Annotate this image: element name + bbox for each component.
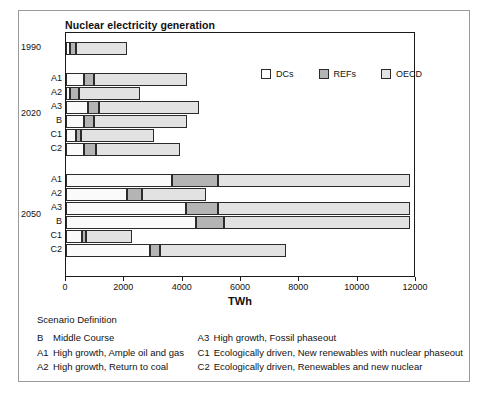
year-group-labels: 199020202050 — [19, 32, 65, 277]
scenario-definition-entry: A3High growth, Fossil phaseout — [198, 332, 463, 343]
bar-segment-refs — [84, 143, 96, 156]
bar-segment-oecd — [79, 87, 140, 100]
bar-segment-dcs — [66, 216, 196, 229]
x-tick-label: 2000 — [113, 282, 133, 292]
bar-segment-refs — [70, 87, 79, 100]
legend-label: REFs — [334, 69, 357, 79]
bar-segment-refs — [172, 174, 218, 187]
bar-segment-refs — [88, 101, 99, 114]
chart-legend: DCsREFsOECD — [261, 69, 422, 79]
scenario-definition-entry: C2Ecologically driven, Renewables and ne… — [198, 361, 463, 372]
scenario-definition-code: A1 — [37, 347, 49, 358]
x-tick — [182, 277, 183, 281]
x-tick — [65, 277, 66, 281]
bar-segment-oecd — [94, 73, 187, 86]
bar-segment-dcs — [66, 129, 76, 142]
x-tick-label: 6000 — [230, 282, 250, 292]
bar-segment-dcs — [66, 115, 84, 128]
legend-label: DCs — [276, 69, 294, 79]
bar-segment-refs — [84, 73, 94, 86]
bar-segment-dcs — [66, 202, 186, 215]
bar-segment-oecd — [76, 42, 127, 55]
scenario-definition-text: Middle Course — [53, 332, 114, 343]
legend-label: OECD — [396, 69, 422, 79]
scenario-definition-code: A2 — [37, 361, 49, 372]
bar-segment-oecd — [86, 230, 132, 243]
scenario-definition-heading: Scenario Definition — [37, 314, 463, 325]
bar-segment-oecd — [218, 202, 410, 215]
year-group-label: 2050 — [21, 209, 65, 220]
scenario-definition-text: High growth, Return to coal — [53, 361, 168, 372]
scenario-definition-code: C2 — [198, 361, 210, 372]
bar-segment-oecd — [96, 143, 180, 156]
x-axis-title: TWh — [65, 295, 415, 307]
bar-segment-dcs — [66, 244, 150, 257]
x-tick-label: 0 — [62, 282, 67, 292]
bar-segment-dcs — [66, 188, 127, 201]
scenario-definition-entry: A2High growth, Return to coal — [37, 361, 198, 372]
chart-title: Nuclear electricity generation — [65, 19, 215, 31]
x-tick — [357, 277, 358, 281]
scenario-definition-entry: BMiddle Course — [37, 332, 198, 343]
x-tick-label: 12000 — [402, 282, 427, 292]
legend-item-oecd: OECD — [381, 69, 422, 79]
year-group-label: 2020 — [21, 108, 65, 119]
bar-segment-oecd — [218, 174, 410, 187]
bar-segment-dcs — [66, 174, 172, 187]
x-tick — [123, 277, 124, 281]
legend-swatch-refs-icon — [319, 69, 329, 79]
scenario-definition-code: B — [37, 332, 49, 343]
bar-segment-refs — [196, 216, 224, 229]
x-tick — [298, 277, 299, 281]
x-tick — [415, 277, 416, 281]
bar-segment-oecd — [160, 244, 286, 257]
bar-segment-dcs — [66, 143, 84, 156]
bar-segment-refs — [84, 115, 94, 128]
scenario-definition-entry: C1Ecologically driven, New renewables wi… — [198, 347, 463, 358]
bar-segment-refs — [186, 202, 218, 215]
bar-segment-oecd — [99, 101, 199, 114]
bar-segment-oecd — [94, 115, 187, 128]
bar-segment-oecd — [81, 129, 155, 142]
scenario-definition-text: High growth, Fossil phaseout — [214, 332, 337, 343]
scenario-definition-right-column: A3High growth, Fossil phaseoutC1Ecologic… — [198, 332, 463, 372]
bar-segment-dcs — [66, 101, 88, 114]
scenario-definition-left-column: BMiddle CourseA1High growth, Ample oil a… — [37, 332, 198, 372]
figure-panel: Nuclear electricity generation A1A2A3BC1… — [18, 10, 470, 382]
scenario-definition-code: C1 — [198, 347, 210, 358]
bar-segment-oecd — [142, 188, 206, 201]
x-tick-label: 8000 — [288, 282, 308, 292]
x-tick — [240, 277, 241, 281]
legend-item-refs: REFs — [319, 69, 357, 79]
scenario-definition-entry: A1High growth, Ample oil and gas — [37, 347, 198, 358]
year-group-label: 1990 — [21, 42, 65, 53]
bar-segment-refs — [150, 244, 160, 257]
bar-segment-refs — [70, 42, 77, 55]
bar-segment-dcs — [66, 73, 84, 86]
legend-swatch-dcs-icon — [261, 69, 271, 79]
legend-item-dcs: DCs — [261, 69, 294, 79]
bar-segment-oecd — [224, 216, 410, 229]
legend-swatch-oecd-icon — [381, 69, 391, 79]
scenario-definition-text: Ecologically driven, New renewables with… — [214, 347, 463, 358]
scenario-definition-text: High growth, Ample oil and gas — [53, 347, 184, 358]
scenario-definition-block: Scenario Definition BMiddle CourseA1High… — [37, 314, 463, 372]
bar-segment-refs — [127, 188, 142, 201]
bar-segment-dcs — [66, 230, 82, 243]
scenario-definition-code: A3 — [198, 332, 210, 343]
scenario-definition-text: Ecologically driven, Renewables and new … — [214, 361, 423, 372]
x-tick-label: 10000 — [344, 282, 369, 292]
x-tick-label: 4000 — [172, 282, 192, 292]
